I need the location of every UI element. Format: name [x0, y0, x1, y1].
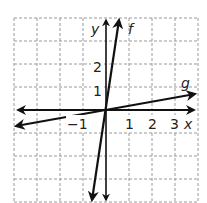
x-tick-2: 2 [148, 116, 157, 132]
x-tick-1: 1 [125, 116, 134, 132]
y-tick-2: 2 [93, 59, 102, 75]
x-tick-neg1: −1 [67, 116, 88, 132]
x-tick-3: 3 [170, 116, 179, 132]
y-axis-label: y [90, 21, 100, 37]
y-tick-1: 1 [93, 83, 102, 99]
x-axis-label: x [183, 116, 193, 132]
coordinate-graph: y f g 2 1 −1 1 2 3 x [0, 0, 207, 203]
line-g-label: g [181, 75, 190, 91]
line-f-label: f [128, 21, 135, 37]
